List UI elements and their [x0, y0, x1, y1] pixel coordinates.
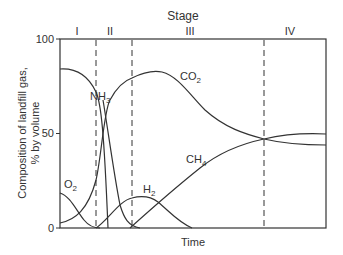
y-axis-label-line1: Composition of landfill gas,: [16, 67, 28, 198]
series-h2-curve: [96, 197, 192, 228]
series-o2-curve: [60, 193, 100, 228]
label-h2: H2: [143, 183, 156, 198]
stage-label-4: IV: [285, 25, 296, 37]
x-axis-label: Time: [181, 236, 205, 248]
plot-frame: [60, 39, 326, 228]
y-tick-50: 50: [42, 127, 54, 139]
stage-label-1: I: [75, 25, 78, 37]
label-o2: O2: [64, 178, 78, 193]
series-nh3-decline-curve: [103, 100, 140, 228]
series-ch4-curve: [130, 134, 326, 228]
y-tick-100: 100: [36, 33, 54, 45]
chart-title: Stage: [167, 9, 199, 23]
y-axis-label-line2: % by volume: [29, 102, 41, 165]
y-tick-0: 0: [48, 222, 54, 234]
label-nh3: NH3: [90, 90, 111, 105]
label-ch4: CH4: [186, 153, 207, 168]
stage-label-2: II: [107, 25, 113, 37]
label-co2: CO2: [180, 70, 202, 85]
stage-label-3: III: [185, 25, 194, 37]
landfill-gas-chart: Stage I II III IV 100 50 0 Composition o…: [0, 0, 343, 255]
